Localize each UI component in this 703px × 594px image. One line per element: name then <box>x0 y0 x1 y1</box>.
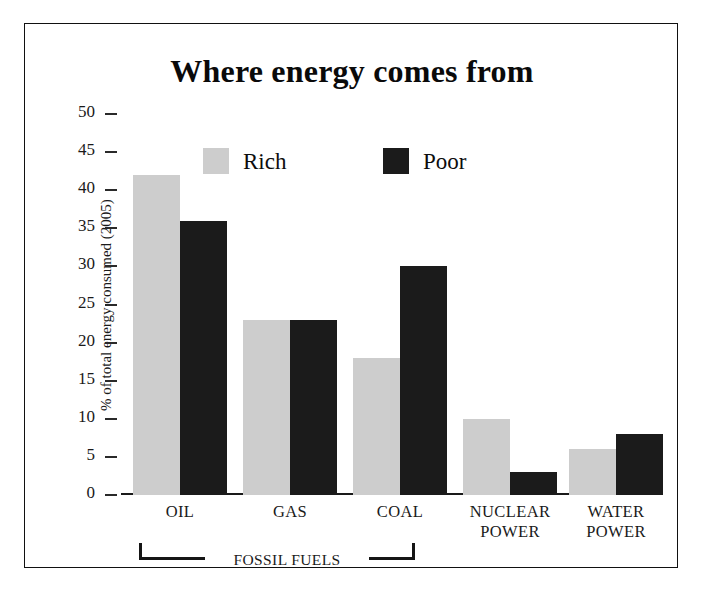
bracket-right-line <box>369 557 415 560</box>
bar-group-nuclear-power <box>463 114 557 495</box>
bar-oil-rich <box>133 175 180 495</box>
y-tick-label-5: 5 <box>87 446 96 463</box>
y-tick-dash-45 <box>105 151 117 153</box>
bar-gas-rich <box>243 320 290 495</box>
bracket-left-line <box>139 557 205 560</box>
y-tick-dash-35 <box>105 227 117 229</box>
y-tick-dash-25 <box>105 304 117 306</box>
y-tick-label-40: 40 <box>78 179 95 196</box>
y-tick-dash-50 <box>105 113 117 115</box>
bar-coal-rich <box>353 358 400 495</box>
y-tick-label-45: 45 <box>78 141 95 158</box>
bar-nuclear-rich <box>463 419 510 495</box>
bar-gas-poor <box>290 320 337 495</box>
bracket-label: FOSSIL FUELS <box>205 552 369 568</box>
fossil-fuels-bracket: FOSSIL FUELS <box>139 538 415 560</box>
bar-group-coal <box>353 114 447 495</box>
bar-group-gas <box>243 114 337 495</box>
plot-area: % of total energy consumed (2005) 0 5 10… <box>121 114 661 495</box>
bar-water-poor <box>616 434 663 495</box>
y-tick-dash-10 <box>105 418 117 420</box>
y-tick-label-50: 50 <box>78 103 95 120</box>
y-tick-label-30: 30 <box>78 255 95 272</box>
bar-group-oil <box>133 114 227 495</box>
y-tick-label-15: 15 <box>78 370 95 387</box>
chart-figure: Where energy comes from Rich Poor % of t… <box>0 0 703 594</box>
y-tick-label-0: 0 <box>87 484 96 501</box>
x-label-water-line1: WATER <box>541 502 691 522</box>
y-tick-dash-20 <box>105 342 117 344</box>
y-tick-label-10: 10 <box>78 408 95 425</box>
figure-border: Where energy comes from Rich Poor % of t… <box>24 23 678 568</box>
x-label-water-power: WATER POWER <box>541 502 691 542</box>
y-tick-dash-40 <box>105 189 117 191</box>
y-tick-label-25: 25 <box>78 294 95 311</box>
y-tick-dash-15 <box>105 380 117 382</box>
y-tick-label-35: 35 <box>78 217 95 234</box>
bar-group-water-power <box>569 114 663 495</box>
x-label-water-line2: POWER <box>541 522 691 542</box>
bracket-right-stem <box>412 543 415 560</box>
y-axis-title: % of total energy consumed (2005) <box>115 0 130 140</box>
y-tick-dash-5 <box>105 456 117 458</box>
y-tick-label-20: 20 <box>78 332 95 349</box>
bar-coal-poor <box>400 266 447 495</box>
y-tick-dash-30 <box>105 265 117 267</box>
y-tick-dash-0 <box>105 494 117 496</box>
bar-oil-poor <box>180 221 227 495</box>
bar-water-rich <box>569 449 616 495</box>
bar-nuclear-poor <box>510 472 557 495</box>
